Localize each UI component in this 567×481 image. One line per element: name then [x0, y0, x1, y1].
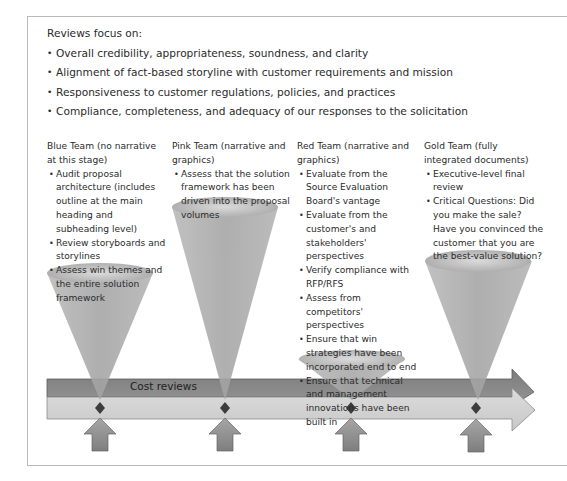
team-bullet-list: Evaluate from the Source Evaluation Boar… [297, 168, 419, 430]
cost-reviews-label: Cost reviews [130, 380, 197, 392]
team-bullet: Evaluate from the customer's and stakeho… [297, 209, 419, 264]
blue-team-column: Blue Team (no narrative at this stage) A… [47, 140, 167, 306]
team-bullet-list: Executive-level final review Critical Qu… [424, 168, 546, 265]
pink-team-cone [172, 197, 278, 400]
team-bullet-list: Audit proposal architecture (includes ou… [47, 168, 167, 306]
team-bullet: Audit proposal architecture (includes ou… [47, 168, 167, 237]
team-bullet: Evaluate from the Source Evaluation Boar… [297, 168, 419, 209]
team-bullet: Assess win themes and the entire solutio… [47, 264, 167, 305]
team-heading: Pink Team (narrative and graphics) [172, 140, 292, 168]
team-heading: Blue Team (no narrative at this stage) [47, 140, 167, 168]
gold-team-column: Gold Team (fully integrated documents) E… [424, 140, 546, 264]
team-heading: Red Team (narrative and graphics) [297, 140, 419, 168]
up-arrow-icon [209, 418, 241, 451]
team-bullet: Review storyboards and storylines [47, 237, 167, 265]
up-arrow-icon [460, 419, 492, 452]
team-bullet: Ensure that win strategies have been inc… [297, 333, 419, 374]
up-arrow-icon [84, 418, 116, 451]
team-heading: Gold Team (fully integrated documents) [424, 140, 546, 168]
team-bullet: Assess from competitors' perspectives [297, 292, 419, 333]
team-bullet: Critical Questions: Did you make the sal… [424, 195, 546, 264]
pink-team-column: Pink Team (narrative and graphics) Asses… [172, 140, 292, 223]
team-bullet: Verify compliance with RFP/RFS [297, 264, 419, 292]
red-team-column: Red Team (narrative and graphics) Evalua… [297, 140, 419, 430]
team-bullet: Ensure that technical and management inn… [297, 375, 419, 430]
team-bullet: Executive-level final review [424, 168, 546, 196]
team-bullet: Assess that the solution framework has b… [172, 168, 292, 223]
team-bullet-list: Assess that the solution framework has b… [172, 168, 292, 223]
